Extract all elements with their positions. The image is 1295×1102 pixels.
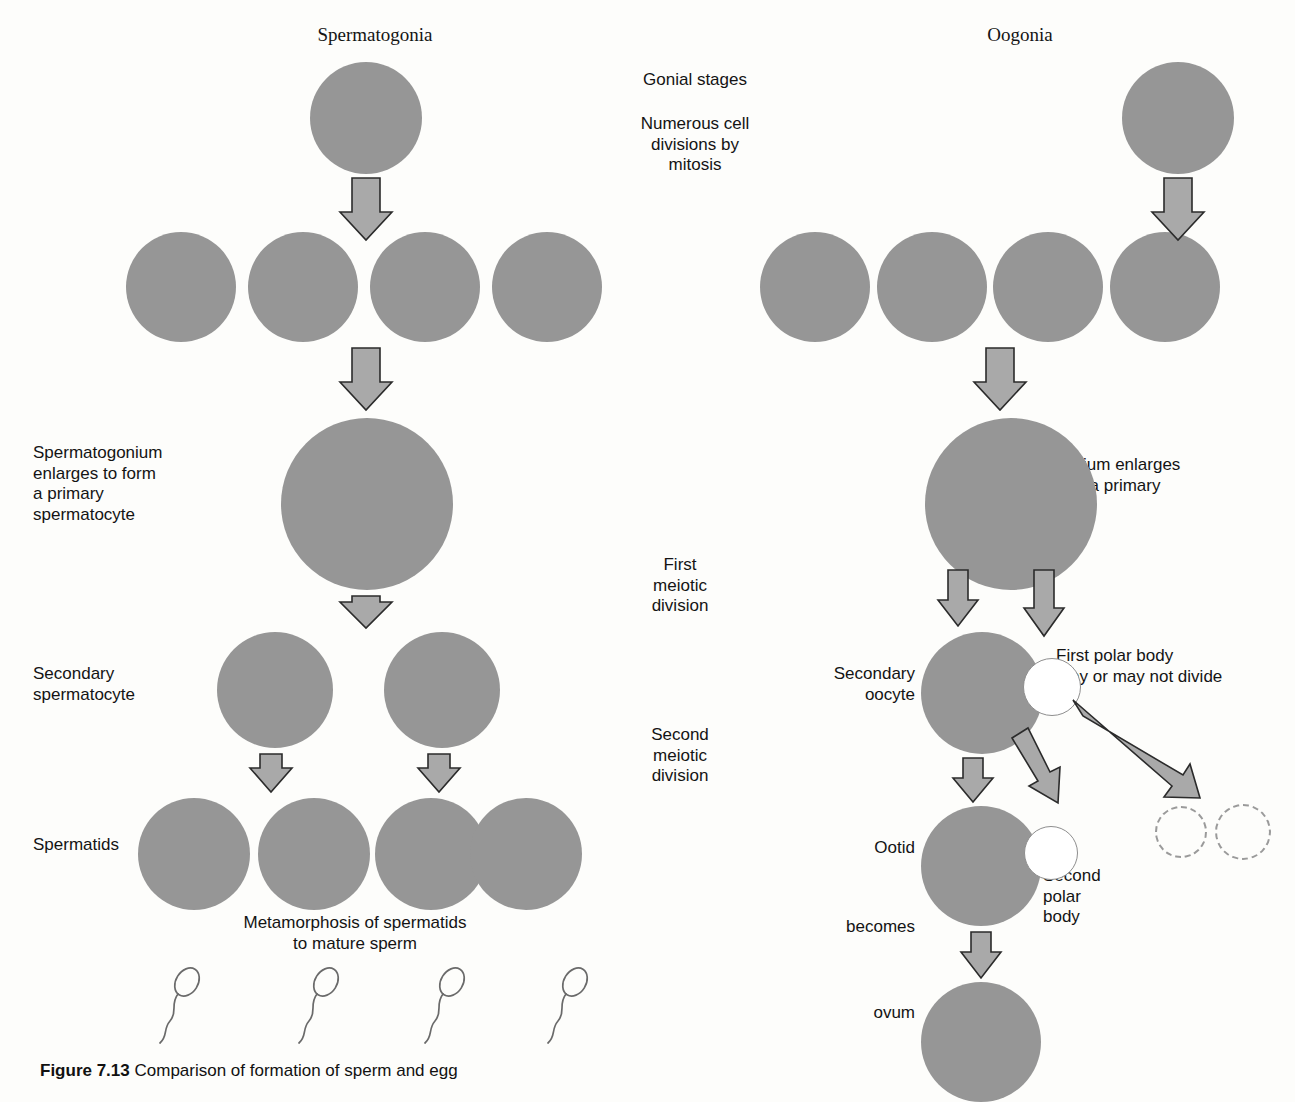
label-second-meiotic-division: Second meiotic division bbox=[605, 725, 755, 787]
arrow-oogonia-mitosis bbox=[1152, 178, 1204, 240]
cell-spermatogonia-product-2 bbox=[248, 232, 358, 342]
label-ootid: Ootid bbox=[775, 838, 915, 859]
figure-caption: Figure 7.13 Comparison of formation of s… bbox=[40, 1061, 1240, 1082]
sperm-4 bbox=[548, 963, 592, 1043]
arrow-to-primary-oocyte bbox=[974, 348, 1026, 410]
figure-caption-text: Comparison of formation of sperm and egg bbox=[135, 1061, 458, 1080]
cell-oogonia-product-1 bbox=[760, 232, 870, 342]
label-first-polar-body: First polar body may or may not divide bbox=[1056, 646, 1295, 687]
cell-spermatid-4 bbox=[470, 798, 582, 910]
arrow-spermatogonia-mitosis bbox=[340, 178, 392, 240]
cell-oogonia-product-3 bbox=[993, 232, 1103, 342]
cell-spermatogonia-product-3 bbox=[370, 232, 480, 342]
arrow-ootid-becomes-ovum bbox=[961, 932, 1001, 978]
cell-secondary-spermatocyte-2 bbox=[384, 632, 500, 748]
cell-secondary-spermatocyte-1 bbox=[217, 632, 333, 748]
cell-first-polar-body bbox=[1023, 658, 1081, 716]
title-oogonia: Oogonia bbox=[905, 23, 1135, 46]
label-first-meiotic-division: First meiotic division bbox=[605, 555, 755, 617]
cell-primary-oocyte bbox=[925, 418, 1097, 590]
label-numerous-divisions: Numerous cell divisions by mitosis bbox=[575, 114, 815, 176]
label-spermatogonium-enlarges: Spermatogonium enlarges to form a primar… bbox=[33, 443, 263, 526]
figure-caption-label: Figure 7.13 bbox=[40, 1061, 130, 1080]
arrow-second-meiotic-right-ootid bbox=[953, 758, 993, 802]
cell-primary-spermatocyte bbox=[281, 418, 453, 590]
arrow-polar-body-divides bbox=[1073, 700, 1200, 798]
cell-oogonia-product-2 bbox=[877, 232, 987, 342]
cell-oogonium bbox=[1122, 62, 1234, 174]
label-metamorphosis: Metamorphosis of spermatids to mature sp… bbox=[165, 913, 545, 954]
label-secondary-oocyte: Secondary oocyte bbox=[775, 664, 915, 705]
arrow-second-meiotic-left-2 bbox=[418, 754, 460, 792]
arrow-first-meiotic-left bbox=[340, 596, 392, 628]
cell-ovum bbox=[921, 982, 1041, 1102]
label-becomes: becomes bbox=[775, 917, 915, 938]
label-gonial-stages: Gonial stages bbox=[575, 70, 815, 91]
cell-spermatogonia-product-4 bbox=[492, 232, 602, 342]
cell-oogonia-product-4 bbox=[1110, 232, 1220, 342]
sperm-3 bbox=[425, 963, 469, 1043]
sperm-1 bbox=[160, 963, 204, 1043]
cell-ootid bbox=[921, 806, 1041, 926]
cell-polar-body-divided-2 bbox=[1215, 804, 1271, 860]
sperm-2 bbox=[299, 963, 343, 1043]
cell-spermatogonium bbox=[310, 62, 422, 174]
cell-second-polar-body bbox=[1024, 826, 1078, 880]
arrow-second-meiotic-left-1 bbox=[250, 754, 292, 792]
cell-spermatogonia-product-1 bbox=[126, 232, 236, 342]
arrow-to-primary-spermatocyte bbox=[340, 348, 392, 410]
cell-polar-body-divided-1 bbox=[1155, 806, 1207, 858]
cell-spermatid-1 bbox=[138, 798, 250, 910]
cell-spermatid-2 bbox=[258, 798, 370, 910]
label-ovum: ovum bbox=[775, 1003, 915, 1024]
title-spermatogonia: Spermatogonia bbox=[230, 23, 520, 46]
